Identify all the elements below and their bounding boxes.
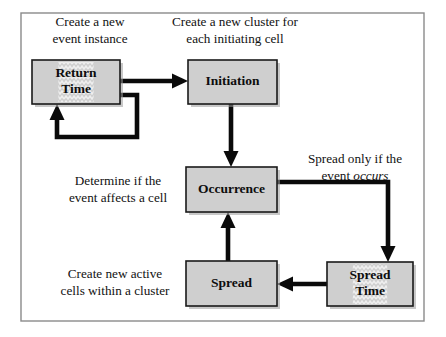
node-occurrence[interactable]: Occurrence: [186, 167, 280, 215]
node-label-line: Time: [355, 283, 385, 298]
node-label-line: Initiation: [205, 73, 260, 88]
node-label-line: Spread: [211, 275, 253, 290]
caption-line: event affects a cell: [69, 190, 168, 205]
node-spread[interactable]: Spread: [186, 261, 280, 309]
caption-line: event occurs: [321, 168, 388, 183]
node-label-line: Spread: [349, 267, 391, 282]
node-label-line: Occurrence: [198, 181, 265, 196]
node-label-line: Time: [61, 81, 91, 96]
caption-line: Determine if the: [75, 173, 162, 188]
node-label-line: Return: [55, 65, 97, 80]
caption-line: Create new active: [68, 266, 163, 281]
caption-line: Spread only if the: [308, 151, 402, 166]
flow-diagram: ReturnTimeInitiationOccurrenceSpreadSpre…: [0, 0, 446, 337]
caption-line: Create a new: [56, 14, 125, 29]
caption-line: event instance: [52, 31, 127, 46]
caption-line: each initiating cell: [186, 31, 284, 46]
node-initiation[interactable]: Initiation: [188, 60, 280, 107]
diagram-canvas: ReturnTimeInitiationOccurrenceSpreadSpre…: [0, 0, 446, 337]
node-return-time[interactable]: ReturnTime: [32, 60, 123, 107]
caption-line: Create a new cluster for: [172, 14, 299, 29]
caption-line: cells within a cluster: [61, 283, 170, 298]
node-spread-time[interactable]: SpreadTime: [327, 262, 416, 309]
